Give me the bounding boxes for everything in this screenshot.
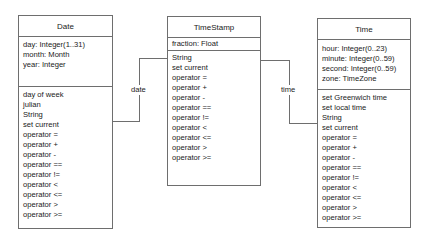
operation: operator ==	[23, 160, 112, 170]
connector-segment	[289, 123, 317, 124]
operation: julian	[23, 100, 112, 110]
class-timestamp-operations: String set current operator = operator +…	[168, 51, 260, 163]
operation: operator -	[322, 153, 410, 163]
class-timestamp-title: TimeStamp	[168, 17, 260, 38]
operation: operator ==	[322, 163, 410, 173]
operation: operator +	[322, 143, 410, 153]
attribute: second: Integer(0..59)	[322, 64, 410, 74]
operation: operator >=	[172, 153, 260, 163]
class-time-title: Time	[318, 19, 410, 40]
connector-segment	[261, 60, 290, 61]
operation: operator >	[322, 203, 410, 213]
operation: operator >	[23, 200, 112, 210]
class-timestamp-attributes: fraction: Float	[168, 38, 260, 51]
operation: operator <=	[23, 190, 112, 200]
operation: operator <	[322, 183, 410, 193]
operation: operator -	[23, 150, 112, 160]
attribute: day: Integer(1..31)	[23, 40, 112, 50]
attribute: hour: Integer(0..23)	[322, 44, 410, 54]
operation: operator +	[172, 83, 260, 93]
connector-segment	[113, 121, 140, 122]
operation: operator <=	[322, 193, 410, 203]
operation: operator <=	[172, 133, 260, 143]
operation: set current	[23, 120, 112, 130]
operation: operator +	[23, 140, 112, 150]
operation: String	[23, 110, 112, 120]
operation: operator =	[172, 73, 260, 83]
operation: operator >	[172, 143, 260, 153]
operation: operator =	[322, 133, 410, 143]
operation: set current	[172, 63, 260, 73]
attribute: year: Integer	[23, 60, 112, 70]
operation: operator =	[23, 130, 112, 140]
association-label-date: date	[130, 85, 147, 95]
attribute: month: Month	[23, 50, 112, 60]
association-label-time: time	[280, 85, 296, 95]
operation: day of week	[23, 90, 112, 100]
operation: set current	[322, 123, 410, 133]
operation: set Greenwich time	[322, 93, 410, 103]
operation: operator <	[23, 180, 112, 190]
class-timestamp[interactable]: TimeStamp fraction: Float String set cur…	[167, 16, 261, 186]
operation: String	[172, 53, 260, 63]
operation: operator !=	[23, 170, 112, 180]
class-time-operations: set Greenwich time set local time String…	[318, 90, 410, 223]
attribute: minute: Integer(0..59)	[322, 54, 410, 64]
class-date-operations: day of week julian String set current op…	[19, 87, 112, 220]
connector-segment	[139, 58, 167, 59]
attribute: zone: TimeZone	[322, 74, 410, 84]
class-date[interactable]: Date day: Integer(1..31) month: Month ye…	[18, 15, 113, 229]
operation: operator !=	[322, 173, 410, 183]
operation: String	[322, 113, 410, 123]
operation: operator >=	[23, 210, 112, 220]
operation: operator >=	[322, 213, 410, 223]
operation: operator ==	[172, 103, 260, 113]
class-date-title: Date	[19, 16, 112, 37]
operation: set local time	[322, 103, 410, 113]
class-time-attributes: hour: Integer(0..23) minute: Integer(0..…	[318, 40, 410, 90]
operation: operator !=	[172, 113, 260, 123]
class-date-attributes: day: Integer(1..31) month: Month year: I…	[19, 37, 112, 87]
operation: operator -	[172, 93, 260, 103]
attribute: fraction: Float	[172, 39, 260, 49]
class-time[interactable]: Time hour: Integer(0..23) minute: Intege…	[317, 18, 411, 228]
operation: operator <	[172, 123, 260, 133]
